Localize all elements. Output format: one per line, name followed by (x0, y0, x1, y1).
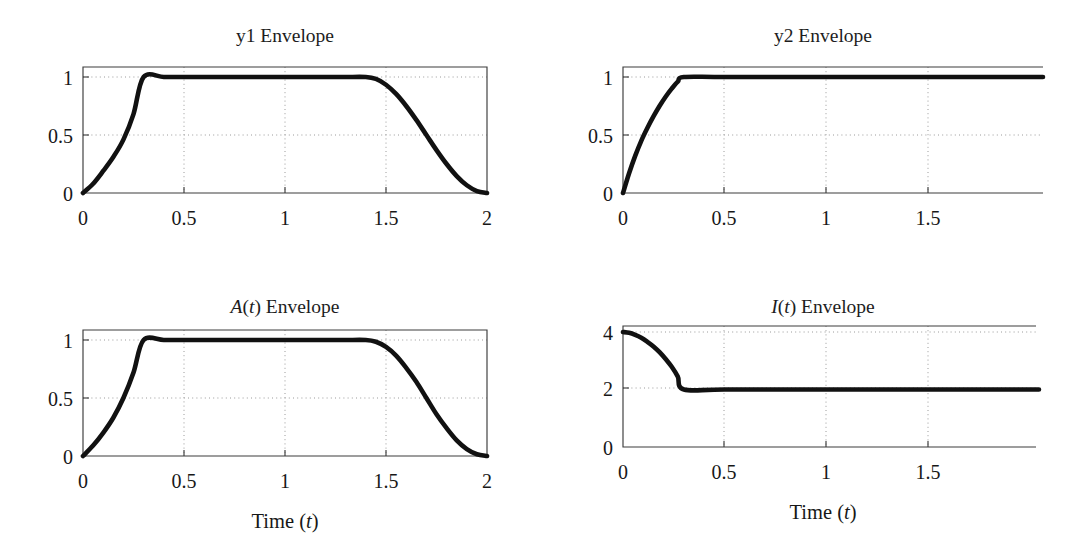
envelope-figure-grid: y1 Envelope 1 0.5 0 0 0.5 1 1.5 (0, 0, 1076, 550)
panel-a-of-t-title: A(t) Envelope (229, 296, 340, 318)
xtick-label-1p5: 1.5 (374, 207, 399, 229)
x-axis-label-prefix: Time ( (251, 510, 306, 533)
xtick-label-0: 0 (618, 461, 628, 483)
xtick-label-0: 0 (78, 207, 88, 229)
data-curve-y1 (83, 74, 487, 193)
ytick-label-1: 1 (63, 67, 73, 89)
ytick-label-0: 0 (63, 183, 73, 205)
xtick-label-1: 1 (821, 461, 831, 483)
ytick-label-4: 4 (603, 322, 613, 344)
x-axis-label-suffix: ) (312, 510, 319, 533)
xtick-label-0: 0 (618, 207, 628, 229)
plot-frame (623, 67, 1043, 193)
xtick-label-1p5: 1.5 (916, 461, 941, 483)
panel-y2-title-suffix: Envelope (793, 25, 872, 46)
panel-i-of-t-canvas: I(t) Envelope 4 2 0 0 0.5 1 1.5 Time (t) (538, 275, 1076, 550)
data-curve-i-of-t (623, 332, 1039, 390)
panel-y1-title: y1 Envelope (236, 25, 334, 46)
ytick-label-0: 0 (603, 437, 613, 459)
ytick-label-0p5: 0.5 (48, 125, 73, 147)
panel-y1-title-main: y1 (236, 25, 256, 46)
x-axis-label: Time (t) (789, 501, 856, 524)
panel-i-of-t-title: I(t) Envelope (770, 296, 874, 318)
xtick-label-0p5: 0.5 (172, 207, 197, 229)
ytick-label-0p5: 0.5 (588, 125, 613, 147)
xtick-label-1: 1 (280, 470, 290, 492)
xtick-label-1: 1 (821, 207, 831, 229)
panel-y2-title-main: y2 (774, 25, 794, 46)
xtick-label-0: 0 (78, 470, 88, 492)
xtick-label-1: 1 (280, 207, 290, 229)
plot-frame (623, 326, 1036, 447)
panel-a-of-t-title-suffix: Envelope (261, 296, 340, 317)
panel-i-of-t: I(t) Envelope 4 2 0 0 0.5 1 1.5 Time (t) (538, 275, 1076, 550)
panel-y2-canvas: y2 Envelope 1 0.5 0 0 0.5 1 1.5 (538, 0, 1076, 275)
ytick-label-2: 2 (603, 378, 613, 400)
panel-y1-title-suffix: Envelope (255, 25, 334, 46)
panel-y1: y1 Envelope 1 0.5 0 0 0.5 1 1.5 (0, 0, 538, 275)
x-axis-label-prefix: Time ( (789, 501, 844, 524)
panel-y1-canvas: y1 Envelope 1 0.5 0 0 0.5 1 1.5 (0, 0, 538, 275)
panel-a-of-t-canvas: A(t) Envelope 1 0.5 0 0 0.5 1 1.5 2 Time… (0, 275, 538, 550)
xtick-label-0p5: 0.5 (712, 461, 737, 483)
xtick-label-2: 2 (482, 470, 492, 492)
xtick-label-2: 2 (482, 207, 492, 229)
x-axis-label-suffix: ) (850, 501, 857, 524)
panel-a-of-t-title-var: A (229, 296, 243, 317)
xtick-label-1p5: 1.5 (374, 470, 399, 492)
panel-i-of-t-title-suffix: Envelope (796, 296, 875, 317)
xtick-label-0p5: 0.5 (712, 207, 737, 229)
panel-y2: y2 Envelope 1 0.5 0 0 0.5 1 1.5 (538, 0, 1076, 275)
ytick-label-0: 0 (603, 183, 613, 205)
xtick-label-0p5: 0.5 (172, 470, 197, 492)
panel-y2-title: y2 Envelope (774, 25, 872, 46)
panel-a-of-t: A(t) Envelope 1 0.5 0 0 0.5 1 1.5 2 Time… (0, 275, 538, 550)
xtick-label-1p5: 1.5 (916, 207, 941, 229)
ytick-label-0: 0 (63, 446, 73, 468)
ytick-label-0p5: 0.5 (48, 388, 73, 410)
x-axis-label: Time (t) (251, 510, 318, 533)
ytick-label-1: 1 (603, 67, 613, 89)
ytick-label-1: 1 (63, 330, 73, 352)
